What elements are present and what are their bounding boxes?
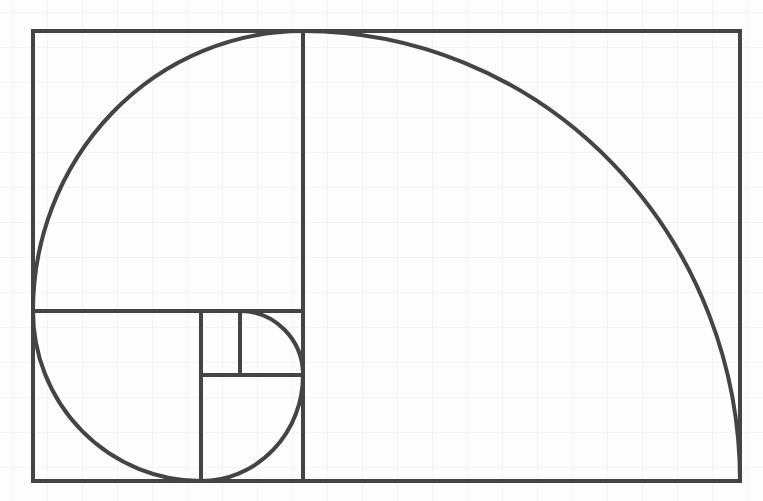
outer-rectangle — [33, 31, 740, 481]
golden-spiral-diagram — [0, 0, 763, 501]
golden-spiral-curve — [33, 31, 740, 481]
diagram-canvas — [0, 0, 763, 501]
division-lines — [33, 31, 303, 481]
